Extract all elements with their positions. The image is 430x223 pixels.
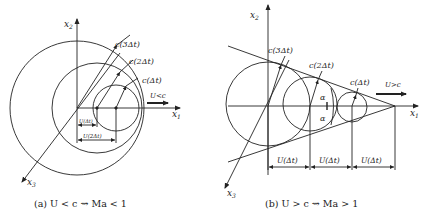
label-c2dt: c(2Δt) <box>309 61 334 70</box>
panel-a-labels: x2 x1 x3 c(3Δt) c(2Δt) c(Δt) U<c U(Δt) U… <box>27 19 181 209</box>
label-alpha-top: α <box>320 93 326 102</box>
radius-arrow-1dt <box>116 86 126 108</box>
svg-text:x1: x1 <box>410 108 419 119</box>
radius-arrow-2dt <box>97 72 120 108</box>
label-u1: U(Δt) <box>79 118 93 124</box>
caption-b: (b) U > c ⇝ Ma > 1 <box>265 198 358 209</box>
label-c1dt: c(Δt) <box>142 76 162 85</box>
x3-axis <box>22 53 120 182</box>
svg-text:x3: x3 <box>27 177 36 188</box>
label-u2: U(Δt) <box>319 156 340 165</box>
label-velocity: U<c <box>150 92 166 100</box>
label-u3: U(Δt) <box>361 156 382 165</box>
panel-b-labels: x2 x1 x3 c(3Δt) c(2Δt) c(Δt) U>c α α U(Δ… <box>227 10 419 209</box>
mach-cone-upper <box>228 46 395 106</box>
svg-text:x3: x3 <box>227 188 236 199</box>
label-c3dt: c(3Δt) <box>115 40 140 49</box>
svg-text:x1: x1 <box>172 109 181 120</box>
alpha-arc <box>331 88 334 125</box>
label-c2dt: c(2Δt) <box>129 57 154 66</box>
label-alpha-bottom: α <box>320 114 326 123</box>
diagram-canvas: x2 x1 x3 c(3Δt) c(2Δt) c(Δt) U<c U(Δt) U… <box>0 0 430 223</box>
label-c3dt: c(3Δt) <box>268 46 293 55</box>
label-c1dt: c(Δt) <box>350 78 370 87</box>
label-velocity: U>c <box>385 81 401 89</box>
panel-a-subsonic <box>10 19 180 182</box>
svg-text:x2: x2 <box>250 10 259 21</box>
radius-arrow-3dt <box>77 45 117 108</box>
caption-a: (a) U < c ⇝ Ma < 1 <box>34 198 127 209</box>
svg-text:x2: x2 <box>64 19 73 30</box>
label-u2: U(2Δt) <box>83 133 102 139</box>
mach-cone-lower <box>228 106 395 162</box>
label-u1: U(Δt) <box>277 156 298 165</box>
